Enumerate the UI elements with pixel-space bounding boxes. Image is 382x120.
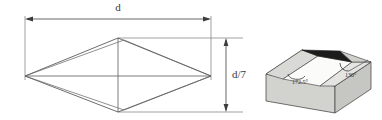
height-extension-lines [118,38,243,112]
arrowhead-left-icon [25,17,33,22]
hip-line-upper-right [124,40,211,76]
hip-line-lower-left [25,76,124,110]
arrowhead-down-icon [224,104,229,112]
figure-container: d d/7 [0,0,382,120]
rhombus-diagonals [25,38,211,112]
right-diagram-group: 172.5° 130° [266,50,371,113]
width-dimension-label: d [115,1,121,13]
arrowhead-right-icon [203,17,211,22]
width-dimension: d [25,1,211,21]
technical-figure: d d/7 [0,0,382,120]
ridge-angle-label: 172.5° [292,79,309,85]
hip-line-upper-left [25,40,124,76]
hip-angle-label: 130° [345,72,357,78]
arrowhead-up-icon [224,38,229,46]
height-dimension: d/7 [224,38,247,112]
left-diagram-group: d d/7 [25,1,247,112]
height-dimension-label: d/7 [232,68,247,80]
hip-line-lower-right [124,76,211,110]
